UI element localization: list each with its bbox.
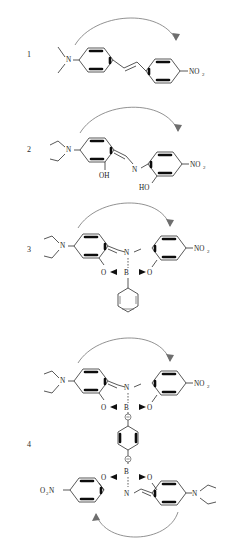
- oxygen-right-label-4-top: O: [147, 404, 152, 412]
- figure-sheet: 1 N NO 2 2: [0, 0, 241, 554]
- ethyl-a2-4-top: [44, 371, 52, 374]
- imine-double-4-bottom: [142, 492, 151, 496]
- oxygen-right-label-4-bottom: O: [147, 474, 152, 482]
- bridging-phenylene-ring-4: [118, 426, 138, 450]
- wedge-left-4-top: [110, 404, 117, 410]
- oxygen-left-label-4-top: O: [101, 404, 106, 412]
- o-bond-right-4-top: [152, 395, 157, 402]
- imine-nitrogen-label-4-top: N: [124, 384, 130, 392]
- ct-arrowhead-4-bottom: [92, 513, 100, 521]
- ethyl-a1-4-bottom: [200, 485, 208, 491]
- ethyl-b1-4-top: [52, 385, 59, 393]
- imine-bond-c-4-top: [134, 384, 141, 387]
- acceptor-nitro-label-4-bottom: N: [49, 487, 55, 495]
- ct-arrow-4-top: [78, 338, 170, 363]
- donor-ring-4-bottom: [152, 481, 186, 505]
- ethyl-a1-4-top: [52, 371, 59, 378]
- oxygen-left-label-4-bottom: O: [101, 474, 106, 482]
- acceptor-ring-4-bottom: [70, 478, 104, 502]
- acceptor-ring-4-top: [152, 371, 186, 395]
- donor-nitrogen-label-4-top: N: [60, 377, 66, 385]
- imine-nitrogen-label-4-bottom: N: [124, 490, 130, 498]
- ethyl-b1-4-bottom: [200, 498, 208, 504]
- ethyl-b2-4-bottom: [208, 502, 216, 504]
- ct-arrow-4-bottom: [96, 512, 178, 537]
- imine-bond-c-4-bottom: [134, 489, 141, 493]
- boron-label-4-top: B: [124, 404, 129, 412]
- ct-arrowhead-4-top: [166, 354, 174, 362]
- ethyl-a2-4-bottom: [208, 485, 216, 488]
- acceptor-nitro-label-4-top: NO: [194, 380, 204, 388]
- o-bond-left-4-top: [99, 393, 104, 400]
- donor-ring-4-top: [74, 369, 108, 393]
- structure-4-drawing: N O N B O NO 2: [0, 0, 241, 554]
- boron-label-4-bottom: B: [124, 468, 129, 476]
- wedge-left-4-bottom: [110, 474, 117, 480]
- donor-nitrogen-label-4-bottom: N: [192, 490, 198, 498]
- acceptor-nitro-sub-4-top: 2: [207, 384, 210, 389]
- wedge-right-4-bottom: [139, 474, 146, 480]
- wedge-right-4-top: [139, 404, 146, 410]
- imine-double-4-top: [108, 384, 117, 388]
- ethyl-b2-4-top: [44, 391, 52, 393]
- o-bond-right-4-bottom: [152, 483, 157, 490]
- acceptor-nitro-pre-4-bottom: O: [40, 487, 45, 495]
